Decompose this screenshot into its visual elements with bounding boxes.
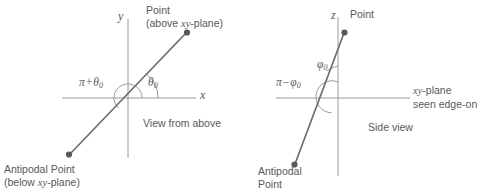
antipodal-label-left-line2-prefix: (below bbox=[4, 176, 38, 188]
angle-pi-plus-theta-label: π+θ0 bbox=[79, 76, 103, 90]
antipodal-label-left-line2: (below xy-plane) bbox=[4, 176, 80, 190]
angle-theta-zero-label: θ0 bbox=[148, 76, 158, 90]
angle-minus-operator: − bbox=[282, 76, 291, 88]
xy-plane-edge-label-line1: xy-plane bbox=[413, 84, 477, 98]
angle-theta-zero-subscript: 0 bbox=[154, 81, 158, 90]
angle-pi-minus-phi-label: π−φ0 bbox=[276, 76, 301, 90]
y-axis-label: y bbox=[118, 9, 123, 24]
point-label-left: Point (above xy-plane) bbox=[146, 4, 223, 30]
xy-plane-edge-label-math: xy bbox=[413, 85, 422, 96]
point-label-left-line2: (above xy-plane) bbox=[146, 17, 223, 31]
point-label-left-line2-math: xy bbox=[181, 18, 190, 29]
antipodal-label-right: Antipodal Point bbox=[258, 165, 302, 190]
angle-phi-zero-subscript: 0 bbox=[323, 63, 327, 72]
point-dot bbox=[184, 29, 190, 35]
angle-pi-symbol-right: π bbox=[276, 76, 282, 88]
xy-plane-edge-label-suffix: -plane bbox=[422, 84, 451, 96]
point-label-right: Point bbox=[350, 8, 374, 21]
antipodal-label-left-line2-suffix: -plane) bbox=[47, 176, 80, 188]
antipodal-label-left-line1: Antipodal Point bbox=[4, 163, 80, 176]
angle-pi-symbol: π bbox=[79, 76, 85, 88]
antipodal-point-dot bbox=[66, 151, 72, 157]
point-label-left-line1: Point bbox=[146, 4, 223, 17]
point-label-left-line2-suffix: -plane) bbox=[190, 17, 223, 29]
caption-view-from-above: View from above bbox=[143, 117, 221, 130]
antipodal-label-right-line2: Point bbox=[258, 178, 302, 191]
xy-plane-edge-label-line2: seen edge-on bbox=[413, 98, 477, 111]
right-panel-geometry bbox=[276, 17, 410, 176]
angle-phi-zero-label: φ0 bbox=[317, 58, 327, 72]
x-axis-label: x bbox=[200, 88, 205, 103]
angle-phi-subscript: 0 bbox=[297, 81, 301, 90]
point-dot-side bbox=[341, 29, 347, 35]
antipodal-label-left: Antipodal Point (below xy-plane) bbox=[4, 163, 80, 189]
antipodal-label-left-line2-math: xy bbox=[38, 177, 47, 188]
xy-plane-edge-label: xy-plane seen edge-on bbox=[413, 84, 477, 110]
caption-side-view: Side view bbox=[368, 121, 413, 134]
angle-theta-subscript: 0 bbox=[99, 81, 103, 90]
angle-plus-operator: + bbox=[85, 76, 94, 88]
z-axis-label: z bbox=[331, 8, 336, 23]
antipodal-label-right-line1: Antipodal bbox=[258, 165, 302, 178]
point-label-left-line2-prefix: (above bbox=[146, 17, 181, 29]
